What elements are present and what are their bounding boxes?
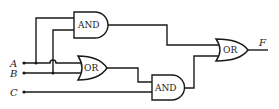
- and-gate-bottom: AND: [152, 75, 184, 100]
- wire-a-to-and-top: [36, 18, 74, 63]
- and-gate-top: AND: [74, 12, 108, 38]
- and-gate-top-label: AND: [77, 20, 100, 30]
- or-gate-final: OR: [216, 39, 248, 61]
- output-label-f: F: [258, 37, 267, 48]
- logic-circuit-diagram: A B C AND OR AND OR F: [0, 0, 279, 109]
- wire-and-top-out: [108, 25, 221, 45]
- and-gate-bottom-label: AND: [154, 83, 177, 93]
- input-label-b: B: [9, 68, 17, 79]
- wire-or-mid-out: [107, 68, 152, 82]
- input-label-c: C: [10, 87, 18, 98]
- or-gate-middle-label: OR: [84, 63, 98, 73]
- or-gate-middle: OR: [78, 56, 107, 80]
- or-gate-final-label: OR: [223, 45, 237, 55]
- wire-b-to-and-top: [53, 30, 74, 73]
